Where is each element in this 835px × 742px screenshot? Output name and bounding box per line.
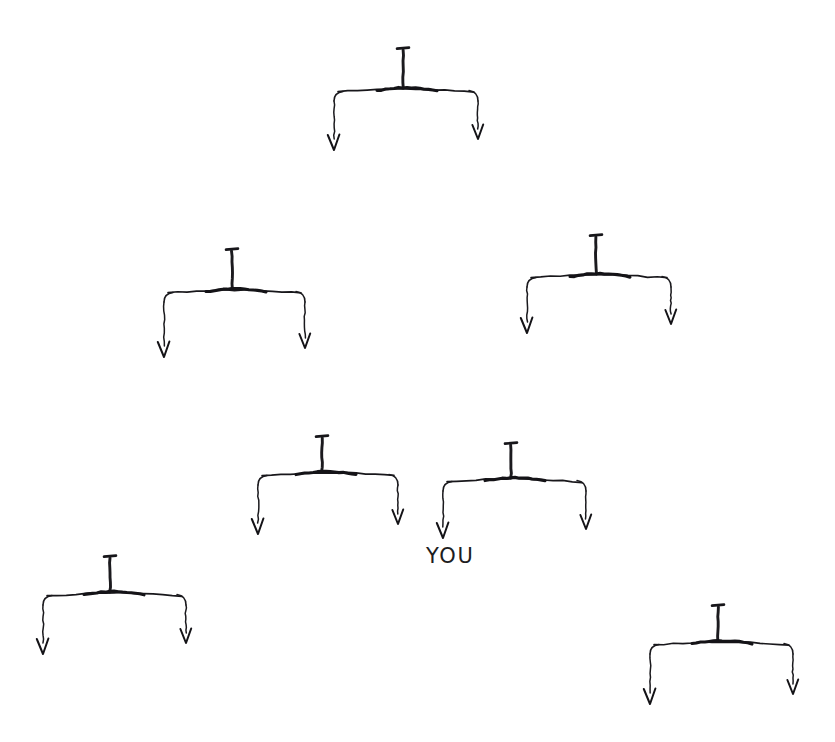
- fork-center-right: [437, 443, 591, 538]
- fork-middle-right: [521, 235, 676, 333]
- diagram-canvas: YOU: [0, 0, 835, 742]
- you-label: YOU: [426, 544, 474, 568]
- fork-layer: [0, 0, 835, 742]
- fork-bottom-right: [644, 605, 798, 704]
- fork-top: [328, 48, 483, 150]
- fork-middle-left: [158, 249, 310, 357]
- fork-bottom-left: [37, 556, 191, 654]
- fork-center-left: [252, 436, 403, 534]
